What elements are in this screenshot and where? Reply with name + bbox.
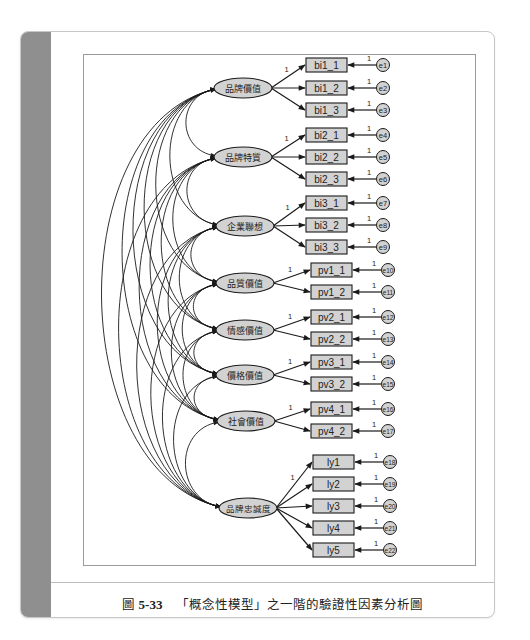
covariance-arc bbox=[182, 284, 218, 374]
error-term-label: e4 bbox=[379, 131, 387, 140]
covariance-arc bbox=[193, 284, 218, 329]
error-path-label: 1 bbox=[374, 517, 378, 526]
fixed-loading-label: 1 bbox=[291, 473, 295, 482]
fixed-loading-label: 1 bbox=[285, 134, 289, 143]
observed-variable-label: ly5 bbox=[327, 545, 340, 556]
observed-variable-label: pv3_1 bbox=[318, 357, 346, 368]
observed-variable-label: bi3_2 bbox=[314, 220, 339, 231]
loading-path bbox=[276, 506, 312, 508]
covariance-arc bbox=[171, 284, 219, 420]
latent-variable-label: 品牌特質 bbox=[225, 152, 261, 163]
loading-path bbox=[273, 226, 305, 247]
error-term-label: e22 bbox=[385, 547, 396, 554]
fixed-loading-label: 1 bbox=[288, 265, 292, 274]
latent-variable-label: 品牌忠誠度 bbox=[226, 504, 271, 514]
covariance-arc bbox=[137, 227, 221, 507]
error-path-label: 1 bbox=[367, 54, 371, 63]
error-path-label: 1 bbox=[372, 259, 376, 268]
latent-variable-label: 情感價值 bbox=[227, 325, 263, 336]
error-path-label: 1 bbox=[374, 495, 378, 504]
error-term-label: e20 bbox=[385, 503, 396, 510]
error-term-label: e11 bbox=[383, 289, 394, 296]
observed-variable-label: pv2_1 bbox=[318, 312, 346, 323]
observed-variable-label: ly1 bbox=[327, 457, 340, 468]
error-path-label: 1 bbox=[372, 306, 376, 315]
latent-variable-label: 價格價值 bbox=[227, 370, 263, 381]
error-path-label: 1 bbox=[367, 192, 371, 201]
error-path-label: 1 bbox=[372, 398, 376, 407]
error-term-label: e7 bbox=[379, 199, 387, 208]
error-path-label: 1 bbox=[372, 281, 376, 290]
fixed-loading-label: 1 bbox=[285, 65, 289, 74]
covariance-arc bbox=[174, 376, 221, 507]
error-term-label: e13 bbox=[383, 336, 394, 343]
covariance-arc bbox=[194, 331, 218, 374]
observed-variable-label: pv3_2 bbox=[318, 379, 346, 390]
observed-variable-label: bi2_1 bbox=[314, 130, 339, 141]
observed-variable-label: pv1_1 bbox=[318, 265, 346, 276]
error-term-label: e6 bbox=[379, 175, 387, 184]
error-term-label: e8 bbox=[379, 221, 387, 230]
loading-path bbox=[276, 462, 312, 508]
observed-variable-label: pv4_1 bbox=[318, 404, 346, 415]
error-term-label: e12 bbox=[383, 314, 394, 321]
error-path-label: 1 bbox=[372, 351, 376, 360]
loading-path bbox=[274, 421, 310, 431]
error-term-label: e17 bbox=[383, 428, 394, 435]
fixed-loading-label: 1 bbox=[288, 357, 292, 366]
loading-path bbox=[273, 375, 310, 384]
error-path-label: 1 bbox=[367, 124, 371, 133]
error-term-label: e3 bbox=[379, 106, 387, 115]
observed-variable-label: bi1_3 bbox=[314, 105, 339, 116]
error-term-label: e16 bbox=[383, 406, 394, 413]
latent-variable-label: 企業聯想 bbox=[227, 221, 263, 232]
error-path-label: 1 bbox=[367, 168, 371, 177]
error-path-label: 1 bbox=[372, 420, 376, 429]
observed-variable-label: ly4 bbox=[327, 523, 340, 534]
error-path-label: 1 bbox=[367, 214, 371, 223]
observed-variable-label: bi2_3 bbox=[314, 174, 339, 185]
error-path-label: 1 bbox=[367, 236, 371, 245]
loading-path bbox=[276, 484, 312, 508]
fixed-loading-label: 1 bbox=[288, 312, 292, 321]
loading-path bbox=[271, 88, 305, 110]
loading-path bbox=[273, 225, 305, 226]
fixed-loading-label: 1 bbox=[289, 403, 293, 412]
latent-variable-label: 品牌價值 bbox=[225, 83, 261, 94]
error-path-label: 1 bbox=[374, 473, 378, 482]
error-path-label: 1 bbox=[372, 328, 376, 337]
error-path-label: 1 bbox=[367, 77, 371, 86]
error-path-label: 1 bbox=[372, 373, 376, 382]
error-path-label: 1 bbox=[374, 539, 378, 548]
error-term-label: e21 bbox=[385, 525, 396, 532]
covariance-arcs bbox=[102, 89, 221, 507]
observed-variable-label: pv2_2 bbox=[318, 334, 346, 345]
cfa-path-diagram: 111111111111111111111111111111 bi1_1e1bi… bbox=[0, 0, 530, 640]
latent-variable-label: 品質價值 bbox=[227, 278, 263, 289]
error-path-label: 1 bbox=[374, 451, 378, 460]
error-term-label: e19 bbox=[385, 481, 396, 488]
error-term-label: e9 bbox=[379, 243, 387, 252]
error-term-label: e10 bbox=[383, 267, 394, 274]
error-path-label: 1 bbox=[367, 99, 371, 108]
observed-variable-label: bi1_2 bbox=[314, 83, 339, 94]
error-term-label: e5 bbox=[379, 153, 387, 162]
error-term-label: e14 bbox=[383, 359, 394, 366]
observed-variable-label: bi3_1 bbox=[314, 198, 339, 209]
fixed-loading-label: 1 bbox=[286, 203, 290, 212]
observed-variable-label: bi3_3 bbox=[314, 242, 339, 253]
error-term-label: e18 bbox=[385, 459, 396, 466]
loading-path bbox=[276, 508, 312, 550]
covariance-arc bbox=[170, 89, 218, 225]
observed-variable-label: pv1_2 bbox=[318, 287, 346, 298]
error-path-label: 1 bbox=[367, 146, 371, 155]
observed-variable-label: bi2_2 bbox=[314, 152, 339, 163]
loading-path bbox=[273, 283, 310, 292]
loading-path bbox=[276, 508, 312, 528]
observed-variable-label: ly3 bbox=[327, 501, 340, 512]
error-term-label: e2 bbox=[379, 84, 387, 93]
loading-path bbox=[273, 330, 310, 339]
observed-variable-label: bi1_1 bbox=[314, 60, 339, 71]
observed-variable-label: ly2 bbox=[327, 479, 340, 490]
latent-variable-label: 社會價值 bbox=[228, 416, 264, 427]
